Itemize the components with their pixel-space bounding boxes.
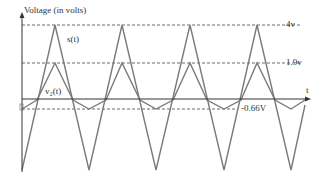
series-s-t xyxy=(22,25,305,170)
x-axis-arrow-icon xyxy=(305,97,311,102)
s-t-label: s(t) xyxy=(67,35,79,44)
ref-label-neg0.66v: -0.66V xyxy=(241,104,266,113)
v2-t-label: v₂(t) xyxy=(45,87,61,96)
x-axis-label: t xyxy=(306,86,309,95)
y-axis-label: Voltage (in volts) xyxy=(24,6,86,15)
ref-label-1.9v: 1.9v xyxy=(286,58,302,67)
ref-label-4v: 4v xyxy=(286,20,295,29)
